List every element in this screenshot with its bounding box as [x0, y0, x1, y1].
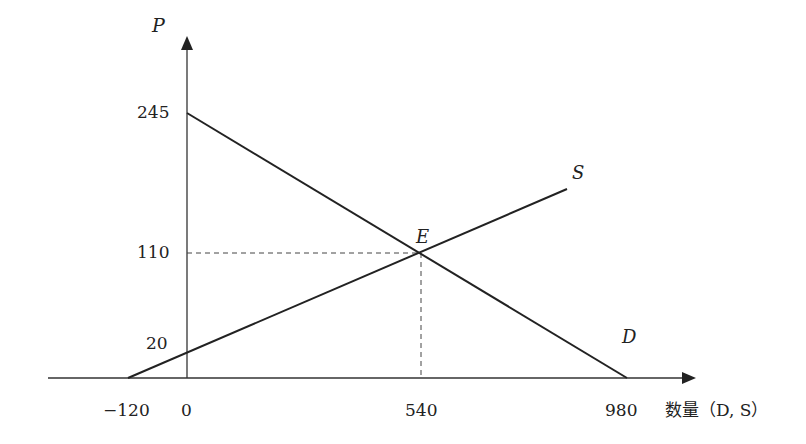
y-tick-110: 110 [137, 244, 169, 261]
equilibrium-label: E [416, 228, 429, 246]
x-axis-arrow-icon [682, 372, 696, 384]
x-axis-label: 数量（D, S） [665, 402, 768, 419]
supply-demand-diagram [0, 0, 806, 444]
demand-curve [187, 113, 627, 378]
x-tick-neg120: −120 [103, 402, 150, 419]
x-tick-0: 0 [181, 402, 192, 419]
x-tick-980: 980 [605, 402, 637, 419]
y-tick-245: 245 [137, 104, 169, 121]
y-tick-20: 20 [146, 335, 168, 352]
demand-label: D [622, 328, 636, 346]
supply-curve [128, 189, 567, 378]
supply-label: S [572, 164, 584, 182]
x-tick-540: 540 [405, 402, 437, 419]
y-axis-arrow-icon [181, 36, 193, 50]
y-axis-label: P [152, 16, 165, 35]
